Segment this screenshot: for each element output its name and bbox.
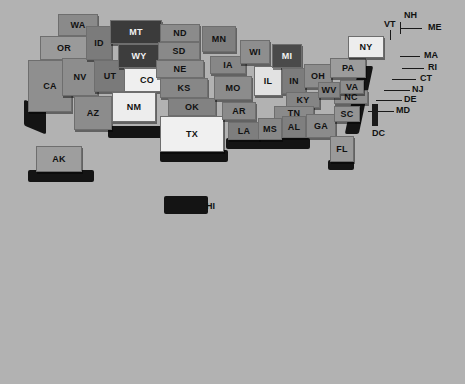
state-label-or: OR [57, 43, 71, 53]
map-extrusion-south [108, 126, 168, 138]
state-label-md: MD [396, 105, 410, 115]
state-nv: NV [62, 58, 98, 96]
state-mt: MT [110, 20, 162, 44]
state-ny: NY [348, 36, 384, 58]
state-sc: SC [334, 106, 360, 122]
state-label-wa: WA [71, 20, 86, 30]
state-label-mt: MT [129, 27, 142, 37]
state-ok: OK [168, 98, 216, 116]
state-label-ga: GA [314, 121, 328, 131]
state-label-mn: MN [212, 34, 226, 44]
state-mn: MN [202, 26, 236, 52]
state-label-ut: UT [104, 71, 116, 81]
state-al: AL [282, 116, 306, 138]
map-extrusion-hawaii [164, 196, 208, 214]
callout-leader-line [376, 100, 402, 101]
state-label-tx: TX [186, 129, 198, 139]
state-id: ID [86, 26, 112, 60]
state-label-nm: NM [127, 102, 141, 112]
state-label-ar: AR [232, 106, 245, 116]
state-label-ny: NY [360, 42, 373, 52]
state-label-in: IN [289, 76, 298, 86]
state-label-pa: PA [342, 63, 354, 73]
state-label-ok: OK [185, 102, 199, 112]
state-wi: WI [240, 40, 270, 64]
callout-leader-line [400, 28, 422, 29]
state-ga: GA [306, 114, 336, 138]
state-label-oh: OH [311, 71, 325, 81]
state-label-dc: DC [372, 128, 385, 138]
state-label-ia: IA [223, 60, 232, 70]
state-label-fl: FL [336, 144, 347, 154]
state-label-il: IL [264, 76, 272, 86]
state-or: OR [40, 36, 88, 60]
state-label-nv: NV [74, 72, 87, 82]
state-label-mi: MI [282, 51, 292, 61]
state-sd: SD [158, 42, 200, 60]
state-wy: WY [118, 44, 160, 68]
us-map: WAORCANVIDUTAZMTWYCONMNDSDNEKSOKTXMNIAMO… [0, 0, 465, 240]
state-label-ca: CA [43, 81, 56, 91]
state-label-wi: WI [249, 47, 260, 57]
state-label-ms: MS [263, 124, 277, 134]
state-label-az: AZ [87, 108, 99, 118]
callout-leader-line [390, 30, 391, 40]
state-label-nd: ND [173, 28, 186, 38]
state-label-ri: RI [428, 62, 437, 72]
state-label-wy: WY [132, 51, 147, 61]
state-label-hi: HI [206, 201, 215, 211]
state-label-id: ID [94, 38, 103, 48]
state-label-ky: KY [297, 95, 310, 105]
state-label-sd: SD [173, 46, 186, 56]
state-label-nh: NH [404, 10, 417, 20]
callout-leader-line [384, 90, 410, 91]
state-label-ct: CT [420, 73, 432, 83]
state-label-ma: MA [424, 50, 438, 60]
state-az: AZ [74, 96, 112, 130]
state-fl: FL [330, 136, 354, 162]
callout-leader-line [400, 56, 420, 57]
state-label-co: CO [140, 75, 154, 85]
state-label-vt: VT [384, 19, 396, 29]
state-label-ks: KS [178, 83, 191, 93]
state-label-nj: NJ [412, 84, 424, 94]
state-nm: NM [112, 92, 156, 122]
state-ar: AR [222, 102, 256, 120]
state-va: VA [340, 80, 364, 94]
state-ks: KS [160, 78, 208, 98]
state-ne: NE [156, 60, 204, 78]
state-tx: TX [160, 116, 224, 152]
state-nd: ND [160, 24, 200, 42]
state-ms: MS [258, 118, 282, 140]
state-wv: WV [318, 82, 340, 98]
state-ak: AK [36, 146, 82, 172]
state-mo: MO [214, 76, 252, 100]
state-label-de: DE [404, 94, 417, 104]
state-label-ne: NE [174, 64, 187, 74]
state-label-mo: MO [226, 83, 241, 93]
state-label-ak: AK [52, 154, 65, 164]
state-label-la: LA [238, 126, 250, 136]
callout-leader-line [402, 68, 424, 69]
callout-leader-line [372, 104, 378, 126]
state-label-al: AL [288, 122, 300, 132]
state-label-me: ME [428, 22, 442, 32]
state-label-sc: SC [341, 109, 354, 119]
state-mi: MI [272, 44, 302, 68]
legend-area: 14 years old15 (pc) 16 (npc)16 (pc) 18 (… [0, 240, 465, 384]
state-label-wv: WV [322, 85, 337, 95]
callout-leader-line [392, 79, 416, 80]
state-label-va: VA [346, 82, 358, 92]
state-la: LA [228, 122, 260, 140]
state-pa: PA [330, 58, 366, 78]
state-il: IL [254, 66, 282, 96]
state-in: IN [282, 68, 306, 94]
